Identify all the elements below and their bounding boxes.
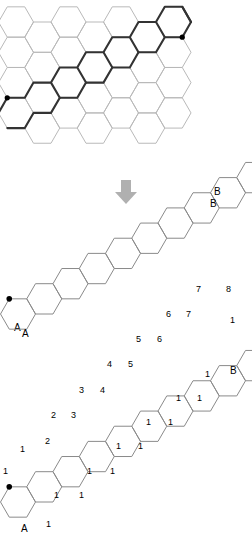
- count-label-11: 1: [116, 441, 121, 451]
- grid-hex-c3-r3: [77, 113, 112, 143]
- counts-node-A: [6, 484, 12, 490]
- chain-hex-1: [27, 284, 62, 314]
- counts-hex-4: [106, 426, 141, 456]
- hexagon-chain-svg: [0, 196, 252, 346]
- count-label-24: 7: [186, 309, 191, 319]
- count-label-18: 1: [168, 417, 173, 427]
- count-label-22: 1: [197, 393, 202, 403]
- count-label-20: 6: [157, 334, 162, 344]
- grid-highlighted-path-upper: [7, 22, 191, 128]
- count-label-5: 2: [51, 410, 56, 420]
- grid-hex-c6-r3: [156, 98, 191, 128]
- count-label-1: 1: [20, 444, 25, 454]
- chain-hex-3: [79, 253, 114, 283]
- count-label-2: 1: [46, 519, 51, 529]
- panel-hexagon-chain: A B: [0, 196, 252, 346]
- count-label-9: 3: [79, 385, 84, 395]
- count-label-23: 1: [205, 369, 210, 379]
- count-label-19: 1: [176, 393, 181, 403]
- chain-hex-2: [53, 269, 88, 299]
- count-label-0: 1: [3, 466, 8, 476]
- count-label-25: 7: [196, 284, 201, 294]
- panel-honeycomb-grid: A B: [0, 0, 252, 178]
- grid-hex-c4-r3: [104, 98, 139, 128]
- grid-path-right-cap: [182, 7, 191, 22]
- count-label-15: 1: [146, 417, 151, 427]
- count-label-17: 5: [136, 334, 141, 344]
- counts-label-B: B: [230, 365, 237, 376]
- count-label-16: 5: [128, 359, 133, 369]
- counts-hex-2: [53, 457, 88, 487]
- count-label-10: 1: [110, 466, 115, 476]
- count-label-6: 1: [79, 490, 84, 500]
- count-label-12: 4: [100, 385, 105, 395]
- count-label-4: 2: [45, 436, 50, 446]
- count-label-3: 1: [54, 490, 59, 500]
- count-label-7: 1: [87, 466, 92, 476]
- chain-hex-4: [106, 238, 141, 268]
- chain-hex-5: [132, 223, 167, 253]
- grid-node-B: [180, 35, 185, 40]
- grid-hex-c0-r0: [0, 7, 34, 37]
- counts-label-A: A: [21, 523, 28, 534]
- grid-hex-c0-r1: [0, 37, 34, 67]
- hexagon-counts-svg: [0, 340, 252, 536]
- grid-node-A: [5, 95, 10, 100]
- counts-hex-9: [237, 350, 252, 380]
- grid-hex-c6-r2: [156, 67, 191, 97]
- count-label-27: 1: [230, 315, 235, 325]
- grid-hex-c5-r3: [130, 113, 165, 143]
- counts-hex-3: [79, 441, 114, 471]
- count-label-13: 4: [107, 359, 112, 369]
- counts-hex-8: [211, 366, 246, 396]
- count-label-26: 8: [226, 284, 231, 294]
- count-label-8: 3: [71, 410, 76, 420]
- chain-hex-6: [158, 208, 193, 238]
- chain-label-A: A: [22, 328, 29, 339]
- count-label-21: 6: [166, 309, 171, 319]
- chain-node-A: [6, 296, 12, 302]
- grid-hex-c1-r0: [25, 22, 60, 52]
- grid-hex-c2-r0: [51, 7, 86, 37]
- honeycomb-grid-svg: [0, 0, 252, 178]
- grid-hex-c5-r2: [130, 83, 165, 113]
- counts-hex-0: [1, 487, 36, 517]
- panel-hexagon-counts: 1111221133114411551166117781 A B: [0, 340, 252, 536]
- chain-label-B: B: [210, 198, 217, 209]
- chain-hex-0: [1, 299, 36, 329]
- count-label-14: 1: [138, 441, 143, 451]
